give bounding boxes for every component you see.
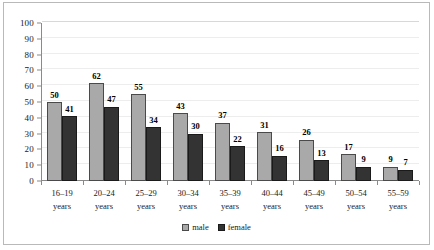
x-axis-category-line: 16–19 xyxy=(41,187,83,200)
bar-value-label: 30 xyxy=(191,122,200,131)
bar-value-label: 55 xyxy=(134,83,143,92)
x-axis-category-line: 45–49 xyxy=(293,187,335,200)
x-axis-category-line: years xyxy=(377,200,419,213)
x-axis-category-label: 40–44years xyxy=(251,187,293,213)
bar-male[interactable]: 50 xyxy=(47,102,62,181)
x-axis-tick-mark xyxy=(125,181,126,185)
x-axis-category-line: 55–59 xyxy=(377,187,419,200)
bar-value-label: 13 xyxy=(317,149,326,158)
gridline xyxy=(42,21,419,22)
x-axis-tick-mark xyxy=(335,181,336,185)
bar-female[interactable]: 9 xyxy=(356,167,371,181)
bar-value-label: 34 xyxy=(149,116,158,125)
y-axis-tick-label: 10 xyxy=(25,160,34,170)
y-axis-tick-label: 40 xyxy=(25,113,34,123)
bar-group: 2613 xyxy=(293,23,335,181)
x-axis-category-line: years xyxy=(251,200,293,213)
bar-value-label: 50 xyxy=(50,91,59,100)
bar-value-label: 22 xyxy=(233,135,242,144)
x-axis-category-label: 16–19years xyxy=(41,187,83,213)
x-axis-category-line: years xyxy=(41,200,83,213)
x-axis-category-line: 40–44 xyxy=(251,187,293,200)
bar-group: 5041 xyxy=(41,23,83,181)
bar-group: 4330 xyxy=(167,23,209,181)
bar-male[interactable]: 55 xyxy=(131,94,146,181)
x-axis-category-line: 20–24 xyxy=(83,187,125,200)
x-axis-tick-mark xyxy=(41,181,42,185)
bar-female[interactable]: 16 xyxy=(272,156,287,181)
bar-group: 3116 xyxy=(251,23,293,181)
x-axis-category-label: 45–49years xyxy=(293,187,335,213)
x-axis-category-line: 25–29 xyxy=(125,187,167,200)
chart-legend: malefemale xyxy=(4,222,429,232)
x-axis-category-label: 35–39years xyxy=(209,187,251,213)
bar-group: 5534 xyxy=(125,23,167,181)
y-axis-tick-label: 90 xyxy=(25,34,34,44)
y-axis-tick-label: 0 xyxy=(29,176,34,186)
x-axis-category-line: 35–39 xyxy=(209,187,251,200)
bar-female[interactable]: 47 xyxy=(104,107,119,181)
bar-value-label: 43 xyxy=(176,102,185,111)
bar-female[interactable]: 34 xyxy=(146,127,161,181)
bar-male[interactable]: 62 xyxy=(89,83,104,181)
bar-group: 179 xyxy=(335,23,377,181)
bar-value-label: 16 xyxy=(275,144,284,153)
bar-female[interactable]: 30 xyxy=(188,134,203,181)
bar-female[interactable]: 7 xyxy=(398,170,413,181)
x-axis-category-label: 20–24years xyxy=(83,187,125,213)
x-axis-category-line: years xyxy=(335,200,377,213)
x-axis-category-line: years xyxy=(125,200,167,213)
bar-female[interactable]: 22 xyxy=(230,146,245,181)
legend-label: female xyxy=(228,222,251,232)
bar-male[interactable]: 17 xyxy=(341,154,356,181)
bar-value-label: 7 xyxy=(403,158,407,167)
x-axis-tick-mark xyxy=(377,181,378,185)
y-axis-tick-label: 100 xyxy=(20,18,34,28)
x-axis-tick-mark xyxy=(83,181,84,185)
y-axis-tick-label: 50 xyxy=(25,97,34,107)
y-axis-tick-label: 70 xyxy=(25,65,34,75)
bar-value-label: 9 xyxy=(361,155,365,164)
bar-group: 3722 xyxy=(209,23,251,181)
bar-value-label: 31 xyxy=(260,121,269,130)
bar-male[interactable]: 37 xyxy=(215,123,230,181)
y-axis-tick-label: 30 xyxy=(25,129,34,139)
x-axis-tick-mark xyxy=(209,181,210,185)
x-axis-category-label: 30–34years xyxy=(167,187,209,213)
bar-group: 97 xyxy=(377,23,419,181)
bar-group: 6247 xyxy=(83,23,125,181)
x-axis-category-line: years xyxy=(83,200,125,213)
x-axis-category-label: 55–59years xyxy=(377,187,419,213)
legend-item-female[interactable]: female xyxy=(218,222,251,232)
x-axis: 16–19years20–24years25–29years30–34years… xyxy=(41,183,419,219)
legend-swatch-icon xyxy=(182,224,189,231)
bar-value-label: 62 xyxy=(92,72,101,81)
bar-value-label: 47 xyxy=(107,95,116,104)
legend-swatch-icon xyxy=(218,224,225,231)
bars-layer: 504162475534433037223116261317997 xyxy=(41,23,419,181)
x-axis-tick-mark xyxy=(167,181,168,185)
x-axis-category-line: years xyxy=(167,200,209,213)
bar-male[interactable]: 9 xyxy=(383,167,398,181)
bar-male[interactable]: 31 xyxy=(257,132,272,181)
legend-label: male xyxy=(192,222,209,232)
bar-value-label: 9 xyxy=(388,155,392,164)
y-axis-tick-label: 20 xyxy=(25,144,34,154)
x-axis-category-line: 30–34 xyxy=(167,187,209,200)
chart-frame: 0102030405060708090100 50416247553443303… xyxy=(3,2,430,245)
bar-value-label: 37 xyxy=(218,111,227,120)
bar-male[interactable]: 26 xyxy=(299,140,314,181)
bar-male[interactable]: 43 xyxy=(173,113,188,181)
y-axis-tick-label: 80 xyxy=(25,50,34,60)
bar-female[interactable]: 13 xyxy=(314,160,329,181)
legend-item-male[interactable]: male xyxy=(182,222,209,232)
x-axis-tick-mark xyxy=(251,181,252,185)
x-axis-category-line: 50–54 xyxy=(335,187,377,200)
bar-value-label: 41 xyxy=(65,105,74,114)
x-axis-category-label: 25–29years xyxy=(125,187,167,213)
bar-female[interactable]: 41 xyxy=(62,116,77,181)
x-axis-category-line: years xyxy=(293,200,335,213)
x-axis-tick-mark xyxy=(293,181,294,185)
bar-value-label: 17 xyxy=(344,143,353,152)
y-axis-tick-label: 60 xyxy=(25,81,34,91)
